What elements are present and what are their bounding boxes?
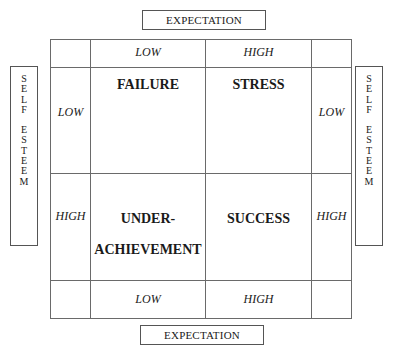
grid-line bbox=[50, 280, 352, 281]
bottom-col-high-label: HIGH bbox=[206, 292, 311, 307]
bottom-col-low-label: LOW bbox=[91, 292, 205, 307]
grid-line bbox=[351, 39, 352, 319]
grid-line bbox=[50, 39, 51, 319]
grid-line bbox=[50, 173, 352, 174]
top-expectation-label: EXPECTATION bbox=[142, 10, 266, 30]
letter: F bbox=[366, 105, 372, 115]
quadrant-grid: LOW HIGH LOW HIGH LOW HIGH LOW HIGH FAIL… bbox=[50, 39, 352, 319]
quadrant-stress: STRESS bbox=[206, 69, 311, 100]
letter: M bbox=[20, 177, 29, 187]
grid-line bbox=[311, 39, 312, 319]
bottom-expectation-label: EXPECTATION bbox=[140, 325, 264, 345]
quadrant-under-achievement: UNDER- ACHIEVEMENT bbox=[91, 203, 205, 265]
grid-line bbox=[50, 67, 352, 68]
letter: F bbox=[21, 105, 27, 115]
right-self-esteem-label: S E L F E S T E E M bbox=[355, 66, 383, 246]
left-self-esteem-label: S E L F E S T E E M bbox=[10, 66, 38, 246]
quadrant-under-line2: ACHIEVEMENT bbox=[91, 234, 205, 265]
grid-line bbox=[50, 39, 352, 40]
right-row-low-label: LOW bbox=[312, 105, 351, 120]
top-col-low-label: LOW bbox=[91, 45, 205, 60]
grid-line bbox=[50, 318, 352, 319]
left-row-low-label: LOW bbox=[51, 105, 90, 120]
left-row-high-label: HIGH bbox=[51, 209, 90, 224]
quadrant-failure: FAILURE bbox=[91, 69, 205, 100]
right-row-high-label: HIGH bbox=[312, 209, 351, 224]
quadrant-under-line1: UNDER- bbox=[91, 203, 205, 234]
letter: M bbox=[365, 177, 374, 187]
top-col-high-label: HIGH bbox=[206, 45, 311, 60]
quadrant-success: SUCCESS bbox=[206, 203, 311, 234]
